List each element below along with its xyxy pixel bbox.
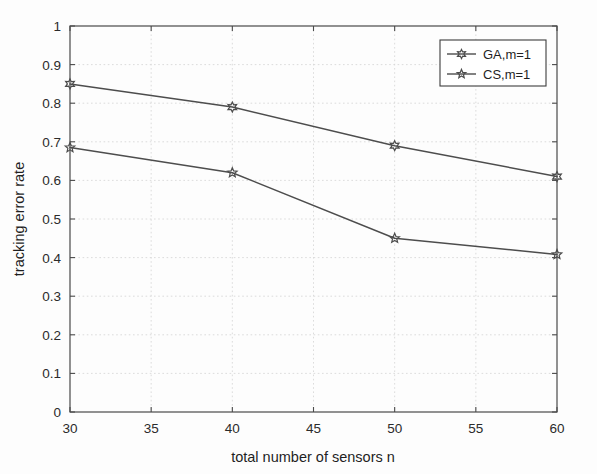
x-tick-label: 35 bbox=[144, 421, 159, 436]
y-axis-title: tracking error rate bbox=[11, 162, 27, 276]
x-tick-label: 50 bbox=[387, 421, 402, 436]
y-tick-label: 0.6 bbox=[42, 173, 61, 188]
chart-legend[interactable]: GA,m=1CS,m=1 bbox=[440, 40, 546, 86]
chart-figure: 00.10.20.30.40.50.60.70.80.91 3035404550… bbox=[0, 0, 597, 474]
y-tick-label: 0.4 bbox=[42, 251, 61, 266]
line-chart: 00.10.20.30.40.50.60.70.80.91 3035404550… bbox=[0, 0, 597, 474]
y-tick-label: 0.3 bbox=[42, 289, 61, 304]
x-tick-label: 60 bbox=[549, 421, 564, 436]
x-axis-tick-labels: 30354045505560 bbox=[62, 421, 564, 436]
y-axis-tick-labels: 00.10.20.30.40.50.60.70.80.91 bbox=[42, 19, 61, 420]
x-tick-label: 40 bbox=[225, 421, 240, 436]
series-line bbox=[70, 148, 557, 255]
y-tick-label: 0.9 bbox=[42, 58, 61, 73]
x-tick-label: 30 bbox=[62, 421, 77, 436]
legend-entry-label: GA,m=1 bbox=[483, 47, 531, 62]
x-tick-label: 55 bbox=[468, 421, 483, 436]
legend-entry-label: CS,m=1 bbox=[483, 67, 530, 82]
y-tick-label: 0.1 bbox=[42, 366, 61, 381]
y-tick-label: 0.8 bbox=[42, 96, 61, 111]
y-tick-label: 1 bbox=[53, 19, 61, 34]
y-tick-label: 0.5 bbox=[42, 212, 61, 227]
x-axis-title: total number of sensors n bbox=[231, 449, 395, 465]
x-tick-label: 45 bbox=[306, 421, 321, 436]
y-tick-label: 0 bbox=[53, 405, 61, 420]
y-tick-label: 0.7 bbox=[42, 135, 61, 150]
y-tick-label: 0.2 bbox=[42, 328, 61, 343]
